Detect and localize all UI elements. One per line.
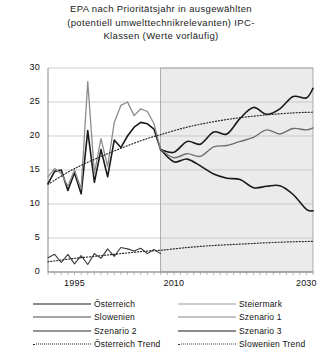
- legend-swatch-icon: [33, 326, 91, 336]
- legend-swatch-icon: [178, 339, 236, 349]
- legend-item[interactable]: Steiermark: [178, 297, 305, 311]
- chart-title-line-1: EPA nach Prioritätsjahr in ausgewählten: [0, 2, 322, 16]
- legend-item[interactable]: Slowenien: [33, 311, 161, 325]
- legend-swatch-icon: [33, 299, 91, 309]
- chart-title: EPA nach Prioritätsjahr in ausgewählten …: [0, 2, 322, 43]
- legend-swatch-icon: [33, 339, 91, 349]
- y-tick-label: 25: [14, 96, 40, 106]
- chart-title-line-3: Klassen (Werte vorläufig): [0, 29, 322, 43]
- chart-container: EPA nach Prioritätsjahr in ausgewählten …: [0, 0, 322, 353]
- series-line: [48, 122, 161, 193]
- legend-item-label: Österreich: [94, 299, 135, 309]
- legend-item[interactable]: Österreich: [33, 297, 161, 311]
- series-line: [48, 248, 161, 265]
- y-tick-label: 20: [14, 130, 40, 140]
- legend-item-label: Slowenien Trend: [239, 339, 305, 349]
- legend-swatch-icon: [33, 312, 91, 322]
- legend-item[interactable]: Szenario 3: [178, 324, 305, 338]
- y-tick-label: 10: [14, 198, 40, 208]
- y-tick-label: 5: [14, 232, 40, 242]
- series-line: [48, 82, 161, 189]
- plot-svg: [0, 58, 322, 280]
- legend-item-label: Szenario 1: [239, 312, 282, 322]
- y-tick-label: 15: [14, 164, 40, 174]
- legend-swatch-icon: [178, 326, 236, 336]
- legend-column-left: ÖsterreichSlowenienSzenario 2Österreich …: [33, 297, 161, 351]
- x-tick-label: 1995: [55, 278, 95, 288]
- legend-item[interactable]: Slowenien Trend: [178, 338, 305, 352]
- legend-item-label: Slowenien: [94, 312, 135, 322]
- x-tick-label: 2030: [286, 278, 322, 288]
- legend-item[interactable]: Szenario 2: [33, 324, 161, 338]
- y-tick-label: 30: [14, 62, 40, 72]
- legend-item-label: Österreich Trend: [94, 339, 161, 349]
- legend-item-label: Szenario 2: [94, 326, 137, 336]
- legend-item[interactable]: Szenario 1: [178, 311, 305, 325]
- legend-item-label: Steiermark: [239, 299, 282, 309]
- legend-swatch-icon: [178, 299, 236, 309]
- legend-item[interactable]: Österreich Trend: [33, 338, 161, 352]
- chart-title-line-2: (potentiell umwelttechnikrelevanten) IPC…: [0, 16, 322, 30]
- legend-column-right: SteiermarkSzenario 1Szenario 3Slowenien …: [178, 297, 305, 351]
- plot-area: [0, 58, 322, 280]
- legend-swatch-icon: [178, 312, 236, 322]
- chart-legend: ÖsterreichSlowenienSzenario 2Österreich …: [0, 297, 322, 353]
- legend-item-label: Szenario 3: [239, 326, 282, 336]
- y-tick-label: 0: [14, 266, 40, 276]
- x-tick-label: 2010: [154, 278, 194, 288]
